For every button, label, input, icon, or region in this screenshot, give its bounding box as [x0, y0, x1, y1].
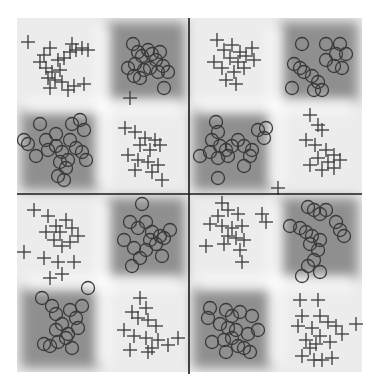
decision-region-chart	[0, 0, 369, 383]
plot-canvas	[0, 0, 369, 383]
